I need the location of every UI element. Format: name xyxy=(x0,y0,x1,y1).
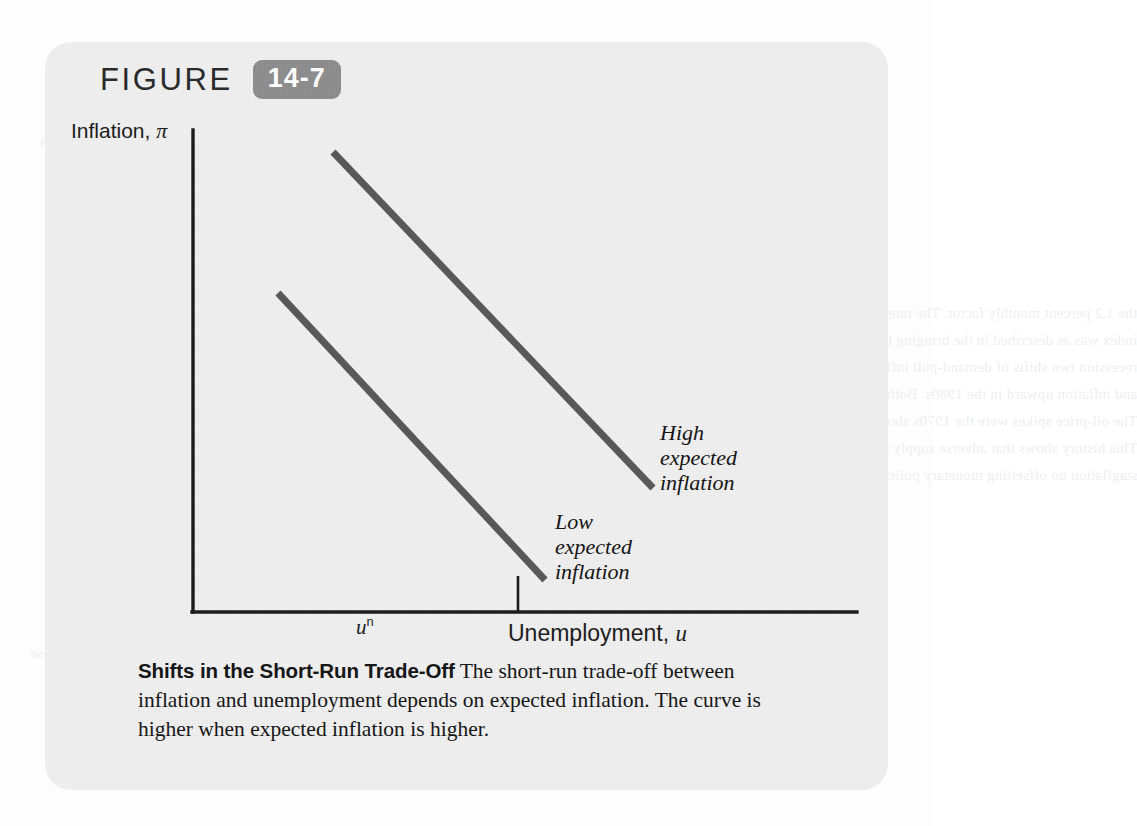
natural-rate-base: u xyxy=(356,615,367,639)
high-expected-inflation-annotation: High expected inflation xyxy=(660,420,737,495)
y-axis-label: Inflation, π xyxy=(71,118,167,144)
high-expected-inflation-curve xyxy=(333,152,653,488)
u-symbol: u xyxy=(675,621,687,646)
natural-rate-superscript: n xyxy=(367,614,374,629)
y-axis-label-text: Inflation, xyxy=(71,119,156,142)
low-expected-inflation-annotation: Low expected inflation xyxy=(555,509,632,584)
figure-label: FIGURE xyxy=(100,62,233,98)
caption-title: Shifts in the Short-Run Trade-Off xyxy=(138,659,455,682)
natural-rate-tick-label: un xyxy=(356,615,374,640)
figure-caption: Shifts in the Short-Run Trade-Off The sh… xyxy=(138,656,810,744)
pi-symbol: π xyxy=(156,118,167,143)
figure-card: FIGURE 14-7 Inflation, π Unemployment, u… xyxy=(45,42,888,790)
x-axis-label: Unemployment, u xyxy=(508,620,687,647)
low-expected-inflation-curve xyxy=(278,293,545,580)
figure-header: FIGURE 14-7 xyxy=(100,60,341,99)
x-axis-label-text: Unemployment, xyxy=(508,620,675,646)
figure-number-badge: 14-7 xyxy=(253,60,341,99)
